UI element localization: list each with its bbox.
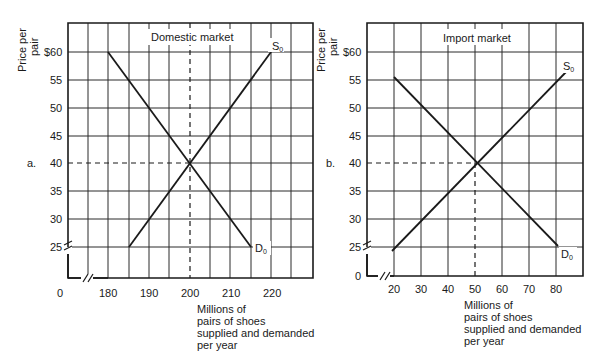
- domestic-chart-title: Domestic market: [151, 31, 234, 43]
- svg-text:50: 50: [50, 102, 62, 114]
- svg-text:0: 0: [57, 287, 63, 299]
- domestic-supply-curve: [129, 52, 271, 247]
- svg-text:60: 60: [496, 283, 508, 295]
- domestic-panel-label: a.: [27, 157, 36, 169]
- svg-text:70: 70: [523, 283, 535, 295]
- import-x-axis-label: Millions of pairs of shoes supplied and …: [464, 299, 585, 347]
- svg-text:220: 220: [263, 287, 281, 299]
- import-y-tick-labels: $60 55 50 45 40 35 30 25 0: [343, 46, 361, 282]
- svg-text:40: 40: [442, 283, 454, 295]
- svg-text:55: 55: [50, 74, 62, 86]
- svg-text:0: 0: [355, 270, 361, 282]
- svg-text:190: 190: [140, 287, 158, 299]
- svg-text:35: 35: [349, 185, 361, 197]
- svg-text:30: 30: [415, 283, 427, 295]
- svg-text:25: 25: [349, 241, 361, 253]
- svg-text:50: 50: [469, 283, 481, 295]
- domestic-x-tick-labels: 0 180 190 200 210 220: [57, 287, 281, 299]
- import-y-axis-label: Price per pair: [315, 25, 339, 72]
- svg-text:20: 20: [388, 283, 400, 295]
- svg-text:55: 55: [349, 74, 361, 86]
- import-market-chart: Import market S0 D0 $60 55 50 45 40 35 3…: [315, 23, 585, 347]
- svg-text:$60: $60: [44, 46, 62, 58]
- svg-text:45: 45: [50, 130, 62, 142]
- import-x-tick-labels: 20 30 40 50 60 70 80: [388, 283, 562, 295]
- svg-text:35: 35: [50, 185, 62, 197]
- svg-text:25: 25: [50, 241, 62, 253]
- svg-text:45: 45: [349, 130, 361, 142]
- svg-text:80: 80: [550, 283, 562, 295]
- svg-text:30: 30: [50, 213, 62, 225]
- figure-canvas: Domestic market S0 D0 $60 55 50 45 40 35…: [0, 0, 604, 360]
- svg-text:210: 210: [222, 287, 240, 299]
- import-chart-title: Import market: [443, 32, 511, 44]
- svg-text:40: 40: [349, 157, 361, 169]
- svg-text:30: 30: [349, 213, 361, 225]
- svg-text:180: 180: [99, 287, 117, 299]
- import-supply-curve: [392, 71, 567, 251]
- domestic-y-axis-label: Price per pair: [16, 25, 40, 72]
- svg-text:40: 40: [50, 157, 62, 169]
- import-panel-label: b.: [326, 157, 335, 169]
- svg-text:200: 200: [181, 287, 199, 299]
- svg-text:50: 50: [349, 102, 361, 114]
- domestic-x-axis-label: Millions of pairs of shoes supplied and …: [197, 303, 318, 351]
- domestic-market-chart: Domestic market S0 D0 $60 55 50 45 40 35…: [16, 23, 318, 351]
- domestic-y-tick-labels: $60 55 50 45 40 35 30 25: [44, 46, 62, 253]
- import-demand-curve: [394, 77, 558, 246]
- svg-text:$60: $60: [343, 46, 361, 58]
